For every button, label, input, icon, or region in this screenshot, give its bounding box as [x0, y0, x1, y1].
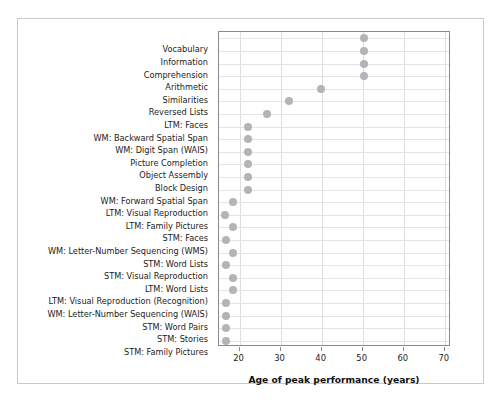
y-gridline [219, 341, 449, 342]
data-point [244, 123, 252, 131]
data-point [360, 47, 368, 55]
y-gridline [219, 139, 449, 140]
y-gridline [219, 38, 449, 39]
data-point [263, 110, 271, 118]
y-tick-label: Block Design [18, 183, 208, 193]
y-gridline [219, 76, 449, 77]
x-tick-label: 20 [233, 353, 244, 363]
y-tick-label: WM: Letter-Number Sequencing (WAIS) [18, 309, 208, 319]
y-tick-label: Similarities [18, 95, 208, 105]
y-gridline [219, 328, 449, 329]
y-gridline [219, 316, 449, 317]
y-gridline [219, 253, 449, 254]
data-point [229, 249, 237, 257]
y-gridline [219, 240, 449, 241]
y-tick-label: LTM: Visual Reproduction (Recognition) [18, 296, 208, 306]
y-tick-label: Vocabulary [18, 44, 208, 54]
y-axis-category-labels: VocabularyInformationComprehensionArithm… [18, 31, 214, 346]
data-point [222, 236, 230, 244]
data-point [221, 211, 229, 219]
x-tick-mark [280, 347, 281, 351]
y-tick-label: STM: Stories [18, 334, 208, 344]
y-gridline [219, 290, 449, 291]
x-gridline [322, 32, 323, 345]
y-tick-label: Picture Completion [18, 158, 208, 168]
data-point [244, 173, 252, 181]
y-tick-label: Arithmetic [18, 82, 208, 92]
y-gridline [219, 265, 449, 266]
y-gridline [219, 51, 449, 52]
x-tick-label: 40 [315, 353, 326, 363]
data-point [222, 324, 230, 332]
y-tick-label: WM: Digit Span (WAIS) [18, 145, 208, 155]
y-gridline [219, 190, 449, 191]
y-tick-label: LTM: Family Pictures [18, 221, 208, 231]
y-gridline [219, 64, 449, 65]
y-tick-label: WM: Backward Spatial Span [18, 133, 208, 143]
y-gridline [219, 202, 449, 203]
y-tick-label: LTM: Faces [18, 120, 208, 130]
x-tick-label: 50 [356, 353, 367, 363]
y-tick-label: LTM: Visual Reproduction [18, 208, 208, 218]
x-gridline [281, 32, 282, 345]
data-point [222, 299, 230, 307]
y-tick-label: WM: Letter-Number Sequencing (WMS) [18, 246, 208, 256]
x-tick-label: 60 [397, 353, 408, 363]
y-gridline [219, 227, 449, 228]
y-tick-label: LTM: Word Lists [18, 284, 208, 294]
y-gridline [219, 303, 449, 304]
data-point [244, 186, 252, 194]
data-point [229, 223, 237, 231]
y-tick-label: STM: Family Pictures [18, 347, 208, 357]
figure-panel: VocabularyInformationComprehensionArithm… [17, 18, 484, 384]
data-point [285, 97, 293, 105]
y-tick-label: STM: Word Lists [18, 259, 208, 269]
y-gridline [219, 127, 449, 128]
x-tick-mark [362, 347, 363, 351]
y-gridline [219, 164, 449, 165]
data-point [360, 34, 368, 42]
y-tick-label: STM: Visual Reproduction [18, 271, 208, 281]
y-gridline [219, 114, 449, 115]
y-tick-label: STM: Word Pairs [18, 322, 208, 332]
data-point [360, 60, 368, 68]
y-gridline [219, 101, 449, 102]
y-gridline [219, 177, 449, 178]
x-tick-mark [403, 347, 404, 351]
data-point [244, 148, 252, 156]
data-point [244, 135, 252, 143]
y-tick-label: Information [18, 57, 208, 67]
data-point [222, 261, 230, 269]
y-tick-label: STM: Faces [18, 233, 208, 243]
y-tick-label: WM: Forward Spatial Span [18, 196, 208, 206]
y-tick-label: Comprehension [18, 70, 208, 80]
y-gridline [219, 215, 449, 216]
data-point [222, 337, 230, 345]
data-point [360, 72, 368, 80]
data-point [244, 160, 252, 168]
x-tick-mark [239, 347, 240, 351]
plot-area [218, 31, 450, 346]
y-gridline [219, 89, 449, 90]
x-tick-label: 70 [438, 353, 449, 363]
x-gridline [240, 32, 241, 345]
y-tick-label: Object Assembly [18, 170, 208, 180]
y-gridline [219, 152, 449, 153]
x-tick-label: 30 [274, 353, 285, 363]
data-point [317, 85, 325, 93]
data-point [229, 274, 237, 282]
data-point [222, 312, 230, 320]
x-gridline [445, 32, 446, 345]
x-tick-mark [321, 347, 322, 351]
y-tick-label: Reversed Lists [18, 107, 208, 117]
x-gridline [404, 32, 405, 345]
data-point [229, 198, 237, 206]
y-gridline [219, 278, 449, 279]
x-axis-title: Age of peak performance (years) [218, 374, 450, 385]
x-tick-mark [444, 347, 445, 351]
data-point [229, 286, 237, 294]
